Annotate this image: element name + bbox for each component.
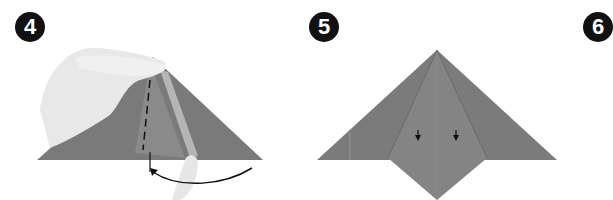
thumb-shape xyxy=(172,155,198,200)
step-4-illustration xyxy=(37,48,263,200)
fold-arrow xyxy=(153,168,252,183)
step-5-illustration xyxy=(317,50,557,200)
